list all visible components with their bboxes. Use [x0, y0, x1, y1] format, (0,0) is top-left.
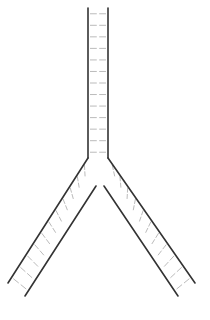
right-daughter-rung	[177, 285, 182, 289]
right-daughter-rung	[163, 245, 166, 249]
right-daughter-rung	[133, 206, 134, 210]
right-daughter-rung	[158, 251, 161, 255]
left-daughter-rung	[28, 256, 32, 260]
right-daughter-rung	[146, 228, 148, 232]
left-daughter-rung	[49, 222, 52, 226]
left-daughter-rung	[21, 268, 25, 272]
left-daughter-rung	[63, 199, 65, 203]
left-daughter-rung	[27, 274, 31, 278]
left-daughter-rung	[35, 245, 38, 249]
right-daughter-rung	[171, 274, 175, 278]
right-daughter-rung	[142, 211, 143, 215]
left-daughter-rung	[56, 211, 58, 215]
left-daughter-rung	[72, 194, 73, 198]
right-daughter-rung	[135, 199, 136, 203]
left-daughter-rung	[47, 240, 50, 244]
right-daughter-inner-strand	[104, 186, 178, 296]
right-daughter-rung	[184, 279, 189, 283]
right-daughter-rung	[156, 233, 159, 237]
right-daughter-rung	[152, 240, 155, 244]
right-daughter-rung	[114, 172, 115, 176]
left-daughter-rung	[34, 262, 38, 266]
left-daughter-rung	[21, 285, 26, 289]
left-daughter-rung	[14, 279, 19, 283]
right-daughter-rung	[149, 222, 151, 226]
left-daughter-rung	[53, 228, 56, 232]
left-daughter-rung	[77, 177, 78, 181]
right-daughter-outer-strand	[108, 158, 195, 283]
base-pair-rungs	[14, 14, 190, 289]
right-daughter-rung	[164, 262, 168, 266]
left-daughter-outer-strand	[8, 158, 88, 283]
left-daughter-rung	[66, 206, 68, 210]
replication-fork-diagram	[0, 0, 210, 320]
left-daughter-rung	[59, 217, 61, 221]
right-daughter-rung	[170, 256, 174, 260]
left-daughter-rung	[70, 188, 71, 192]
left-daughter-rung	[40, 251, 43, 255]
right-daughter-rung	[177, 268, 181, 272]
left-daughter-rung	[42, 233, 45, 237]
left-daughter-rung	[78, 183, 79, 187]
right-daughter-rung	[140, 217, 141, 221]
